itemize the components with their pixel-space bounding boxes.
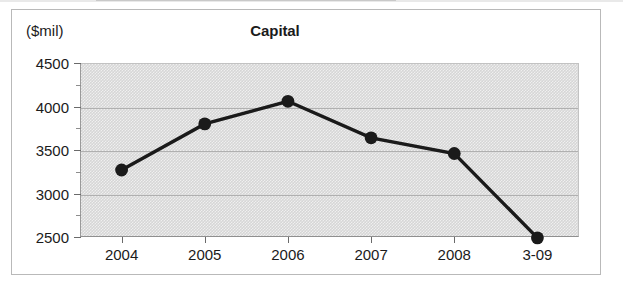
line-series-capital xyxy=(12,10,602,276)
chart-figure-card: ($mil) Capital 45004000350030002500 2004… xyxy=(11,9,601,275)
series-line-capital xyxy=(122,101,538,238)
scan-artifact-line-secondary xyxy=(96,0,396,1)
data-point-marker xyxy=(448,147,461,160)
screenshot-root: ($mil) Capital 45004000350030002500 2004… xyxy=(0,0,623,289)
data-point-marker xyxy=(531,231,544,244)
data-point-marker xyxy=(115,164,128,177)
data-point-marker xyxy=(198,118,211,131)
data-point-marker xyxy=(282,95,295,108)
data-point-marker xyxy=(365,131,378,144)
